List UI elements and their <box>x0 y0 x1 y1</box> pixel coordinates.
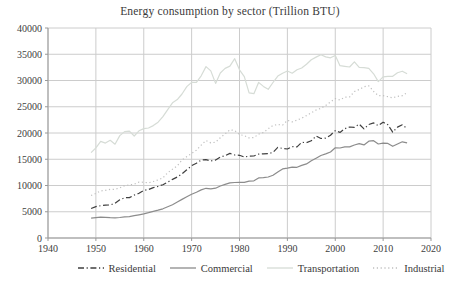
legend-item-residential: Residential <box>78 263 156 274</box>
x-tick-label: 2000 <box>325 243 345 254</box>
legend-item-transportation: Transportation <box>267 263 359 274</box>
y-tick-label: 35000 <box>17 49 42 60</box>
series-line-commercial <box>91 141 407 219</box>
plot-area: 0500010000150002000025000300003500040000… <box>0 0 460 293</box>
legend-line-sample <box>170 265 196 271</box>
legend-item-commercial: Commercial <box>170 263 253 274</box>
x-tick-label: 1970 <box>182 243 202 254</box>
y-tick-label: 15000 <box>17 154 42 165</box>
y-tick-label: 0 <box>37 233 42 244</box>
x-tick-label: 2010 <box>373 243 393 254</box>
y-tick-label: 20000 <box>17 128 42 139</box>
legend-item-industrial: Industrial <box>373 263 444 274</box>
x-tick-label: 1960 <box>134 243 154 254</box>
y-tick-label: 5000 <box>22 206 42 217</box>
y-tick-label: 25000 <box>17 101 42 112</box>
x-tick-label: 1980 <box>230 243 250 254</box>
legend-line-sample <box>78 265 104 271</box>
legend-line-sample <box>267 265 293 271</box>
x-tick-label: 1990 <box>277 243 297 254</box>
x-tick-label: 1940 <box>38 243 58 254</box>
chart-figure: Energy consumption by sector (Trillion B… <box>0 0 460 293</box>
legend-label: Industrial <box>404 263 444 274</box>
series-line-industrial <box>91 86 407 196</box>
series-line-residential <box>91 122 407 208</box>
y-tick-label: 30000 <box>17 75 42 86</box>
chart-legend: ResidentialCommercialTransportationIndus… <box>62 258 460 278</box>
x-tick-label: 1950 <box>86 243 106 254</box>
legend-line-sample <box>373 265 399 271</box>
legend-label: Residential <box>109 263 156 274</box>
y-tick-label: 40000 <box>17 23 42 34</box>
y-tick-label: 10000 <box>17 180 42 191</box>
legend-label: Commercial <box>201 263 253 274</box>
legend-label: Transportation <box>298 263 359 274</box>
x-tick-label: 2020 <box>421 243 441 254</box>
